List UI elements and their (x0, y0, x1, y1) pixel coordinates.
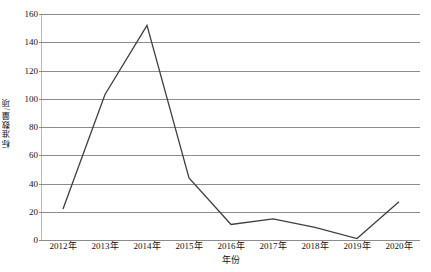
y-axis-tick-label: 0 (34, 236, 39, 245)
y-axis-tick-labels: 020406080100120140160 (14, 14, 40, 240)
x-axis-tick-label: 2016年 (218, 242, 245, 251)
x-axis-tick-label: 2017年 (260, 242, 287, 251)
x-axis-tick-label: 2013年 (92, 242, 119, 251)
x-axis-tick-label: 2018年 (302, 242, 329, 251)
x-axis-tick-label: 2015年 (176, 242, 203, 251)
y-axis-tick-label: 20 (29, 208, 38, 217)
y-axis-tick-label: 140 (25, 38, 39, 47)
x-axis-tick-label: 2020年 (386, 242, 413, 251)
plot-area (42, 14, 420, 240)
x-axis-title: 年份 (42, 256, 420, 265)
x-axis-tick-label: 2019年 (344, 242, 371, 251)
y-axis-tick-label: 80 (29, 123, 38, 132)
y-axis-tick-label: 60 (29, 151, 38, 160)
y-axis-tick-label: 160 (25, 10, 39, 19)
y-axis-title: 标准数量/项 (0, 0, 14, 246)
line-chart: 标准数量/项 020406080100120140160 2012年2013年2… (0, 0, 431, 272)
x-axis-tick-label: 2012年 (50, 242, 77, 251)
x-axis-tick-label: 2014年 (134, 242, 161, 251)
y-axis-title-text: 标准数量/项 (1, 98, 13, 148)
y-axis-tick-label: 100 (25, 95, 39, 104)
y-axis-tick-label: 120 (25, 67, 39, 76)
y-axis-tick-label: 40 (29, 180, 38, 189)
series-line-standards-count (42, 14, 420, 240)
